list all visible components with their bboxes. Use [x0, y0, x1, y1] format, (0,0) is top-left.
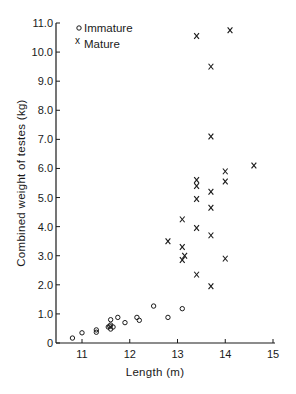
y-tick-label: 4.0	[38, 221, 53, 233]
y-tick-label: 10.0	[32, 46, 53, 58]
immature-point	[108, 318, 112, 322]
x-axis-ticks: 1112131415	[76, 339, 279, 360]
mature-point	[209, 283, 214, 289]
immature-point	[137, 318, 141, 322]
legend-mature-label: Mature	[84, 38, 120, 50]
immature-point	[80, 331, 84, 335]
x-tick-label: 11	[76, 348, 87, 360]
immature-point	[151, 304, 155, 308]
mature-point	[209, 64, 214, 70]
legend-immature-marker-icon	[77, 26, 81, 30]
mature-point	[223, 179, 228, 185]
mature-point	[180, 244, 185, 250]
mature-point	[223, 168, 228, 174]
y-tick-label: 2.0	[38, 279, 53, 291]
legend-mature-marker-icon: x	[75, 35, 80, 46]
data-points	[70, 27, 256, 340]
mature-point	[194, 225, 199, 231]
x-tick-label: 14	[219, 348, 231, 360]
mature-point	[209, 205, 214, 211]
mature-point	[194, 177, 199, 183]
mature-point	[209, 189, 214, 195]
y-tick-label: 8.0	[38, 104, 53, 116]
mature-point	[252, 163, 257, 169]
mature-point	[194, 196, 199, 202]
legend-immature-label: Immature	[84, 22, 133, 34]
y-tick-label: 1.0	[38, 308, 53, 320]
immature-point	[180, 306, 184, 310]
x-tick-label: 13	[171, 348, 183, 360]
mature-point	[194, 272, 199, 278]
legend: Immature x Mature	[75, 22, 133, 50]
chart-axes	[56, 23, 275, 343]
y-tick-label: 3.0	[38, 250, 53, 262]
x-tick-label: 12	[124, 348, 136, 360]
y-axis-label: Combined weight of testes (kg)	[15, 99, 27, 267]
mature-point	[223, 256, 228, 262]
mature-point	[166, 238, 171, 244]
y-tick-label: 9.0	[38, 75, 53, 87]
immature-point	[135, 315, 139, 319]
immature-point	[70, 336, 74, 340]
y-tick-label: 11.0	[32, 17, 53, 29]
mature-point	[209, 232, 214, 238]
y-tick-label: 6.0	[38, 162, 53, 174]
immature-point	[123, 320, 127, 324]
mature-point	[194, 33, 199, 39]
mature-point	[180, 216, 185, 222]
mature-point	[209, 134, 214, 140]
mature-point	[228, 27, 233, 33]
immature-point	[116, 315, 120, 319]
scatter-chart: 01.02.03.04.05.06.07.08.09.010.011.0 111…	[0, 0, 296, 394]
immature-point	[166, 315, 170, 319]
x-tick-label: 15	[267, 348, 279, 360]
y-tick-label: 5.0	[38, 192, 53, 204]
mature-point	[194, 183, 199, 189]
y-tick-label: 7.0	[38, 133, 53, 145]
y-tick-label: 0	[47, 337, 53, 349]
x-axis-label: Length (m)	[126, 366, 185, 378]
